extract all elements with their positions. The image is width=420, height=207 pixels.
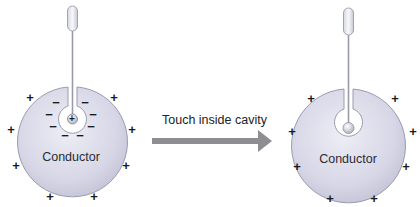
- outer-positive-charge: +: [12, 159, 20, 172]
- right-probe: [343, 8, 354, 134]
- outer-positive-charge: +: [293, 160, 301, 173]
- left-conductor-label: Conductor: [42, 150, 100, 164]
- outer-positive-charge: +: [370, 192, 378, 205]
- outer-positive-charge: +: [307, 92, 315, 105]
- inner-negative-charge: −: [81, 96, 89, 109]
- outer-positive-charge: +: [122, 159, 130, 172]
- inner-negative-charge: −: [52, 96, 60, 109]
- outer-positive-charge: +: [26, 91, 34, 104]
- right-probe-ball: [343, 123, 354, 134]
- inner-negative-charge: −: [49, 120, 57, 133]
- outer-positive-charge: +: [288, 125, 296, 138]
- outer-positive-charge: +: [7, 123, 15, 136]
- outer-positive-charge: +: [90, 190, 98, 203]
- outer-positive-charge: +: [326, 192, 334, 205]
- outer-positive-charge: +: [391, 92, 399, 105]
- outer-positive-charge: +: [402, 160, 410, 173]
- arrow-label: Touch inside cavity: [162, 113, 267, 127]
- inner-negative-charge: −: [76, 129, 84, 142]
- outer-positive-charge: +: [409, 125, 417, 138]
- outer-positive-charge: +: [128, 123, 136, 136]
- outer-positive-charge: +: [46, 190, 54, 203]
- probe-positive-charge: +: [69, 114, 75, 124]
- right-conductor-label: Conductor: [319, 152, 377, 166]
- inner-negative-charge: −: [61, 129, 69, 142]
- diagram-canvas: Conductor + − − − − − − − − + + + + + + …: [0, 0, 420, 207]
- inner-negative-charge: −: [87, 120, 95, 133]
- transition-arrow: [152, 130, 272, 152]
- outer-positive-charge: +: [110, 91, 118, 104]
